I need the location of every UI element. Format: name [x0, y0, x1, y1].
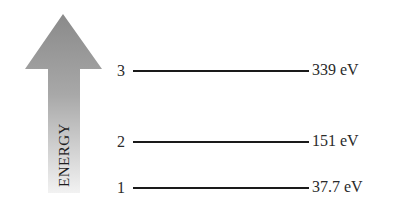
- level-energy-value: 37.7 eV: [312, 177, 363, 197]
- level-line: [133, 141, 309, 143]
- energy-level-1: 1 37.7 eV: [0, 188, 405, 207]
- level-energy-value: 151 eV: [312, 131, 359, 151]
- level-number: 1: [117, 178, 125, 198]
- energy-level-3: 3 339 eV: [0, 71, 405, 91]
- level-energy-value: 339 eV: [312, 60, 359, 80]
- level-number: 3: [117, 61, 125, 81]
- level-number: 2: [117, 132, 125, 152]
- level-line: [133, 70, 309, 72]
- level-line: [133, 187, 309, 189]
- energy-level-2: 2 151 eV: [0, 142, 405, 162]
